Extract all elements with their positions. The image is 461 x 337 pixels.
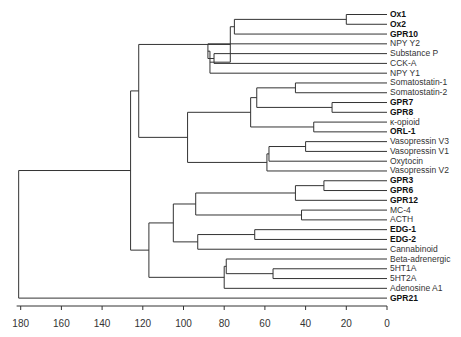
leaf-label: Adenosine A1 (390, 283, 442, 293)
leaf-label: Ox2 (390, 19, 406, 29)
leaf-label: EDG-1 (390, 224, 416, 234)
leaf-label: Ox1 (390, 9, 406, 19)
axis-tick-label: 0 (384, 318, 390, 329)
leaf-label: NPY Y2 (390, 38, 420, 48)
axis-tick-label: 60 (259, 318, 270, 329)
axis-tick-label: 160 (53, 318, 70, 329)
leaf-label: 5HT1A (390, 263, 416, 273)
leaf-label: GPR6 (390, 185, 413, 195)
leaf-label: GPR12 (390, 195, 418, 205)
leaf-label: GPR7 (390, 97, 413, 107)
leaf-label: ORL-1 (390, 126, 416, 136)
leaf-label: Somatostatin-1 (390, 77, 447, 87)
axis-tick-label: 80 (219, 318, 230, 329)
axis-tick-label: 100 (175, 318, 192, 329)
leaf-label: κ-opioid (390, 117, 420, 127)
axis-tick-label: 20 (341, 318, 352, 329)
leaf-label: Beta-adrenergic (390, 254, 450, 264)
axis-tick-label: 140 (94, 318, 111, 329)
leaf-label: NPY Y1 (390, 68, 420, 78)
leaf-label: ACTH (390, 214, 413, 224)
axis-tick-label: 40 (300, 318, 311, 329)
leaf-label: Substance P (390, 48, 438, 58)
leaf-label: CCK-A (390, 58, 416, 68)
leaf-label: GPR8 (390, 107, 413, 117)
leaf-label: GPR21 (390, 293, 418, 303)
leaf-label: EDG-2 (390, 234, 416, 244)
leaf-label: GPR10 (390, 29, 418, 39)
leaf-label: GPR3 (390, 175, 413, 185)
leaf-label: Cannabinoid (390, 244, 438, 254)
leaf-label: 5HT2A (390, 273, 416, 283)
leaf-label: Vasopressin V3 (390, 136, 449, 146)
leaf-label: Somatostatin-2 (390, 87, 447, 97)
leaf-label: MC-4 (390, 205, 411, 215)
leaf-label: Oxytocin (390, 156, 423, 166)
leaf-label: Vasopressin V1 (390, 146, 449, 156)
axis-tick-label: 120 (134, 318, 151, 329)
leaf-label: Vasopressin V2 (390, 165, 449, 175)
axis-tick-label: 180 (12, 318, 29, 329)
